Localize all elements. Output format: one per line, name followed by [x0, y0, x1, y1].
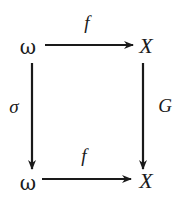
left-arrow-label: σ [9, 97, 18, 116]
top-arrow-label: f [84, 13, 89, 32]
node-bottom-left: ω [20, 173, 36, 193]
arrows-layer [0, 0, 180, 200]
node-bottom-right: X [139, 170, 152, 192]
node-top-left: ω [20, 37, 36, 57]
commutative-diagram: ω X ω X f σ G f [0, 0, 180, 200]
node-top-right: X [139, 35, 152, 57]
right-arrow-label: G [158, 96, 172, 115]
bottom-arrow-label: f [81, 146, 86, 165]
